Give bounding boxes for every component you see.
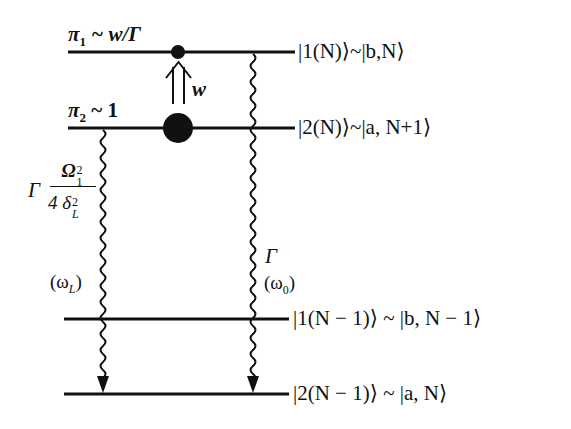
state-label-2N-1: |2(N − 1)⟩ ~ |a, N⟩ bbox=[293, 383, 447, 404]
left-frequency-label: (ωL) bbox=[50, 272, 82, 295]
arrowhead-left-icon bbox=[97, 376, 109, 393]
fraction-bar bbox=[50, 186, 96, 187]
rate-numerator: Ω21 bbox=[50, 160, 96, 182]
population-dot-large bbox=[163, 113, 193, 143]
state-label-1N: |1(N)⟩~|b,N⟩ bbox=[298, 41, 405, 62]
rate-denominator: 4 δ2L bbox=[48, 192, 98, 214]
population-label-2: π2 ~ 1 bbox=[68, 100, 118, 124]
pump-label: w bbox=[192, 79, 206, 100]
population-dot-small bbox=[171, 45, 185, 59]
wavy-decay-right bbox=[251, 54, 256, 382]
gamma-symbol: Γ bbox=[28, 178, 40, 203]
population-label-1: π1 ~ w/Γ bbox=[68, 24, 141, 48]
state-label-2N: |2(N)⟩~|a, N+1⟩ bbox=[298, 117, 431, 138]
right-rate-label: Γ bbox=[265, 246, 277, 267]
state-label-1N-1: |1(N − 1)⟩ ~ |b, N − 1⟩ bbox=[293, 308, 481, 329]
arrowhead-right-icon bbox=[247, 376, 259, 393]
pi1-symbol: π bbox=[68, 22, 79, 46]
pump-double-arrow-icon bbox=[166, 62, 191, 104]
left-rate-label: Γ Ω21 4 δ2L bbox=[28, 160, 103, 220]
pi2-value: ~ 1 bbox=[86, 98, 118, 122]
right-frequency-label: (ω0) bbox=[264, 273, 295, 296]
pi1-value: ~ w/Γ bbox=[86, 22, 141, 46]
pi2-symbol: π bbox=[68, 98, 79, 122]
